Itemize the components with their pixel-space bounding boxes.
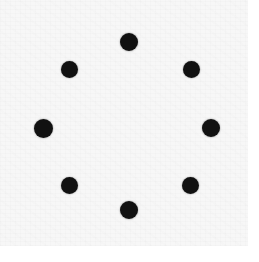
dot-top	[120, 33, 138, 51]
dot-top-right	[183, 61, 200, 78]
dot-bottom-right	[182, 177, 199, 194]
dot-left	[34, 119, 53, 138]
dot-right	[202, 119, 220, 137]
dot-pattern-layer	[0, 0, 259, 262]
image-canvas	[0, 0, 259, 262]
dot-bottom-left	[61, 177, 78, 194]
dot-bottom	[120, 201, 138, 219]
dot-top-left	[61, 61, 78, 78]
